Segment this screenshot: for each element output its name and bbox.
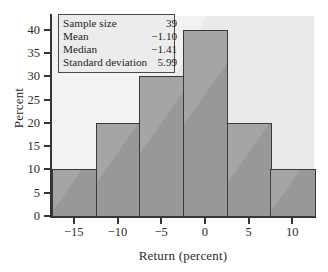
statistics-value: 5.99 (147, 56, 177, 69)
y-tick-label: 0 (0, 210, 40, 223)
statistics-value: 39 (147, 17, 177, 30)
x-tick-label: 10 (268, 226, 316, 239)
statistics-label: Median (63, 43, 147, 56)
histogram-figure: 0510152025303540 −15−10−50510 Percent Re… (0, 0, 328, 272)
x-tick-label: 0 (181, 226, 229, 239)
histogram-bar (227, 123, 272, 217)
statistics-value: −1.10 (147, 30, 177, 43)
statistics-row: Sample size39 (63, 17, 177, 30)
x-tick-mark (248, 217, 250, 224)
statistics-label: Standard deviation (63, 56, 147, 69)
y-tick-mark (44, 145, 51, 147)
histogram-bar (270, 169, 315, 217)
y-tick-label: 5 (0, 187, 40, 200)
x-tick-label: 5 (225, 226, 273, 239)
y-tick-label: 40 (0, 24, 40, 37)
statistics-box: Sample size39Mean−1.10Median−1.41Standar… (58, 14, 175, 73)
y-tick-mark (44, 192, 51, 194)
statistics-row: Mean−1.10 (63, 30, 177, 43)
histogram-bar (96, 123, 141, 217)
y-tick-mark (44, 99, 51, 101)
x-tick-mark (117, 217, 119, 224)
x-tick-label: −15 (50, 226, 98, 239)
statistics-row: Standard deviation5.99 (63, 56, 177, 69)
y-tick-mark (44, 75, 51, 77)
x-tick-mark (204, 217, 206, 224)
x-tick-label: −10 (94, 226, 142, 239)
y-tick-mark (44, 215, 51, 217)
y-tick-mark (44, 52, 51, 54)
x-tick-mark (291, 217, 293, 224)
histogram-bar (183, 30, 228, 217)
statistics-value: −1.41 (147, 43, 177, 56)
y-tick-mark (44, 122, 51, 124)
y-axis-title: Percent (11, 58, 27, 158)
statistics-table: Sample size39Mean−1.10Median−1.41Standar… (63, 17, 177, 69)
statistics-label: Mean (63, 30, 147, 43)
y-tick-label: 10 (0, 163, 40, 176)
histogram-bar (52, 169, 97, 217)
x-axis-title: Return (percent) (52, 248, 314, 264)
x-tick-mark (160, 217, 162, 224)
statistics-row: Median−1.41 (63, 43, 177, 56)
y-tick-mark (44, 168, 51, 170)
histogram-bar (139, 76, 184, 217)
y-tick-mark (44, 29, 51, 31)
x-tick-mark (73, 217, 75, 224)
x-tick-label: −5 (137, 226, 185, 239)
statistics-label: Sample size (63, 17, 147, 30)
